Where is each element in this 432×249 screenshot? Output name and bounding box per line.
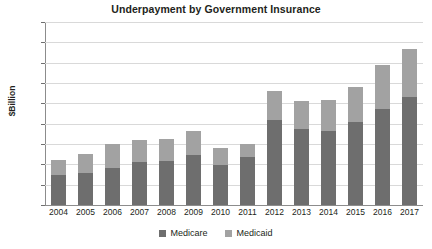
x-tick-label: 2015 (342, 207, 369, 217)
bar-segment-medicare[interactable] (132, 162, 147, 205)
chart-container: Underpayment by Government Insurance $Bi… (0, 0, 432, 249)
x-tick-label: 2007 (126, 207, 153, 217)
bar-segment-medicaid[interactable] (78, 154, 93, 173)
bar-group[interactable] (186, 131, 201, 205)
bar-segment-medicaid[interactable] (51, 160, 66, 175)
gridline (45, 205, 423, 206)
legend-item[interactable]: Medicare (159, 228, 207, 238)
x-tick-label: 2009 (180, 207, 207, 217)
bar-segment-medicaid[interactable] (375, 65, 390, 110)
x-tick-label: 2010 (207, 207, 234, 217)
legend-label: Medicaid (236, 228, 272, 238)
x-tick-label: 2006 (99, 207, 126, 217)
bars-layer (45, 22, 423, 205)
x-tick-label: 2014 (315, 207, 342, 217)
bar-group[interactable] (348, 87, 363, 205)
bar-group[interactable] (159, 139, 174, 205)
bar-segment-medicare[interactable] (159, 161, 174, 205)
chart-title: Underpayment by Government Insurance (0, 3, 432, 15)
bar-segment-medicaid[interactable] (321, 100, 336, 131)
legend-label: Medicare (170, 228, 207, 238)
bar-segment-medicaid[interactable] (267, 91, 282, 119)
bar-segment-medicaid[interactable] (132, 140, 147, 162)
bar-group[interactable] (321, 100, 336, 205)
bar-segment-medicare[interactable] (78, 173, 93, 205)
legend-swatch-icon (159, 230, 166, 237)
bar-group[interactable] (294, 101, 309, 205)
x-tick-label: 2013 (288, 207, 315, 217)
bar-segment-medicare[interactable] (375, 109, 390, 205)
bar-segment-medicare[interactable] (186, 155, 201, 205)
bar-segment-medicaid[interactable] (186, 131, 201, 155)
bar-segment-medicare[interactable] (348, 122, 363, 205)
x-tick-label: 2017 (396, 207, 423, 217)
x-tick-label: 2011 (234, 207, 261, 217)
bar-group[interactable] (213, 148, 228, 205)
bar-segment-medicaid[interactable] (294, 101, 309, 129)
x-axis-labels: 2004200520062007200820092010201120122013… (45, 207, 423, 221)
bar-segment-medicaid[interactable] (402, 49, 417, 97)
bar-group[interactable] (267, 91, 282, 205)
x-tick-label: 2016 (369, 207, 396, 217)
x-tick-label: 2012 (261, 207, 288, 217)
x-tick-label: 2004 (45, 207, 72, 217)
y-tick-mark (41, 205, 45, 206)
legend-swatch-icon (225, 230, 232, 237)
bar-group[interactable] (78, 154, 93, 205)
bar-segment-medicare[interactable] (240, 157, 255, 205)
bar-segment-medicaid[interactable] (213, 148, 228, 165)
bar-segment-medicare[interactable] (51, 175, 66, 205)
bar-segment-medicare[interactable] (267, 120, 282, 205)
bar-segment-medicaid[interactable] (240, 144, 255, 157)
bar-group[interactable] (375, 65, 390, 205)
bar-group[interactable] (51, 160, 66, 205)
legend-item[interactable]: Medicaid (225, 228, 272, 238)
bar-group[interactable] (105, 144, 120, 205)
x-tick-label: 2005 (72, 207, 99, 217)
bar-segment-medicare[interactable] (402, 97, 417, 205)
x-tick-label: 2008 (153, 207, 180, 217)
bar-group[interactable] (132, 140, 147, 205)
chart-legend: MedicareMedicaid (0, 228, 432, 238)
bar-group[interactable] (240, 144, 255, 205)
bar-segment-medicare[interactable] (294, 129, 309, 205)
plot-area: 9080706050403020100 (45, 22, 423, 205)
bar-segment-medicare[interactable] (321, 131, 336, 205)
bar-segment-medicaid[interactable] (159, 139, 174, 161)
bar-segment-medicaid[interactable] (348, 87, 363, 122)
bar-segment-medicare[interactable] (213, 165, 228, 205)
bar-segment-medicare[interactable] (105, 168, 120, 205)
bar-segment-medicaid[interactable] (105, 144, 120, 168)
y-axis-title: $Billion (7, 71, 17, 131)
bar-group[interactable] (402, 49, 417, 205)
